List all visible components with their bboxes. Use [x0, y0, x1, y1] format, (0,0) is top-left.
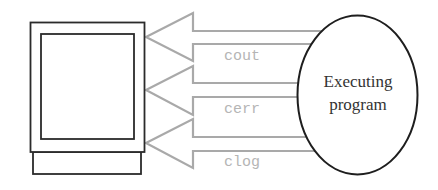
monitor-icon — [31, 23, 145, 175]
program-label-line1: Executing — [324, 72, 393, 91]
program-label-line2: program — [329, 95, 387, 114]
stream-label-cerr: cerr — [224, 101, 260, 118]
stream-label-clog: clog — [224, 154, 260, 171]
stream-labels: cout cerr clog — [224, 48, 260, 171]
program-node: Executing program — [298, 16, 418, 175]
stream-label-cout: cout — [224, 48, 260, 65]
monitor-screen — [41, 34, 134, 139]
stream-arrows — [146, 13, 322, 168]
stream-diagram: cout cerr clog Executing program — [0, 0, 438, 190]
monitor-base — [33, 152, 141, 174]
